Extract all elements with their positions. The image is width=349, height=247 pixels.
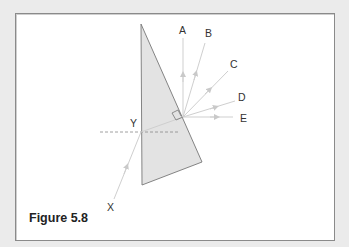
prism-shape (141, 24, 202, 185)
incident-ray (114, 132, 141, 199)
label-c: C (230, 58, 238, 70)
figure-stage: A B C D E Y X Figure 5.8 (0, 0, 349, 247)
incident-ray-arrow (124, 166, 127, 174)
label-b: B (205, 27, 212, 39)
label-y: Y (130, 117, 137, 129)
prism-diagram: A B C D E Y X (0, 0, 349, 247)
ray-c-arrow (205, 89, 210, 94)
figure-caption: Figure 5.8 (29, 211, 88, 225)
emergent-rays (183, 38, 235, 117)
label-a: A (179, 24, 186, 36)
label-d: D (238, 91, 246, 103)
label-x: X (107, 201, 114, 213)
ray-b-arrow (194, 73, 196, 80)
label-e: E (240, 112, 247, 124)
